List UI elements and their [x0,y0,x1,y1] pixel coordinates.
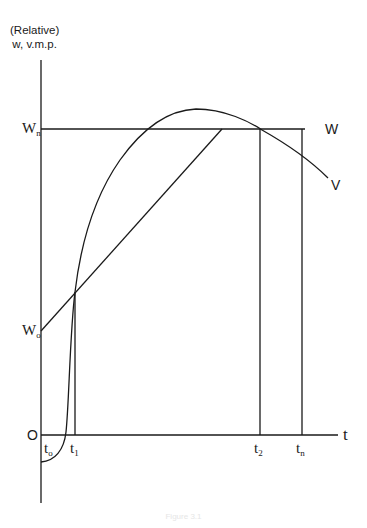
w-curve-label: W [325,122,338,136]
t-axis-label: t [343,426,348,443]
tn-label: tn [296,441,305,458]
y-axis-label-line2: w, v.m.p. [10,37,59,51]
diagram-canvas [0,0,367,528]
t0-label: to [44,441,53,458]
origin-label: O [27,428,38,442]
v-curve-label: V [331,178,340,192]
v-curve [41,109,328,462]
w0-label: Wo [22,323,41,340]
diagonal-line [41,129,222,331]
wn-label: Wn [22,121,41,138]
t1-label: t1 [70,441,79,458]
t2-label: t2 [254,441,263,458]
y-axis-label: (Relative) w, v.m.p. [10,23,59,51]
figure-caption: Figure 3.1 [0,512,367,521]
y-axis-label-line1: (Relative) [10,23,59,37]
